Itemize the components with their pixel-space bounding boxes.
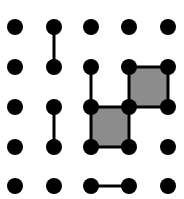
grid-dot[interactable] — [160, 59, 176, 75]
grid-dot[interactable] — [83, 178, 99, 194]
dots-and-boxes-board[interactable] — [0, 0, 184, 199]
grid-dot[interactable] — [160, 139, 176, 155]
grid-dot[interactable] — [83, 99, 99, 115]
grid-dot[interactable] — [121, 139, 137, 155]
grid-dot[interactable] — [7, 59, 23, 75]
grid-dot[interactable] — [160, 19, 176, 35]
grid-dot[interactable] — [160, 178, 176, 194]
grid-dot[interactable] — [46, 59, 62, 75]
grid-dot[interactable] — [7, 99, 23, 115]
grid-dot[interactable] — [83, 19, 99, 35]
grid-dot[interactable] — [121, 59, 137, 75]
grid-dot[interactable] — [121, 19, 137, 35]
grid-dot[interactable] — [83, 139, 99, 155]
grid-dot[interactable] — [121, 99, 137, 115]
grid-dot[interactable] — [7, 139, 23, 155]
lines-layer — [54, 27, 168, 186]
grid-dot[interactable] — [46, 178, 62, 194]
grid-dot[interactable] — [160, 99, 176, 115]
grid-dot[interactable] — [46, 139, 62, 155]
grid-dot[interactable] — [7, 178, 23, 194]
claimed-box — [91, 107, 129, 147]
grid-dot[interactable] — [7, 19, 23, 35]
grid-dot[interactable] — [46, 19, 62, 35]
grid-dot[interactable] — [46, 99, 62, 115]
grid-dot[interactable] — [83, 59, 99, 75]
claimed-box — [129, 67, 168, 107]
grid-dot[interactable] — [121, 178, 137, 194]
